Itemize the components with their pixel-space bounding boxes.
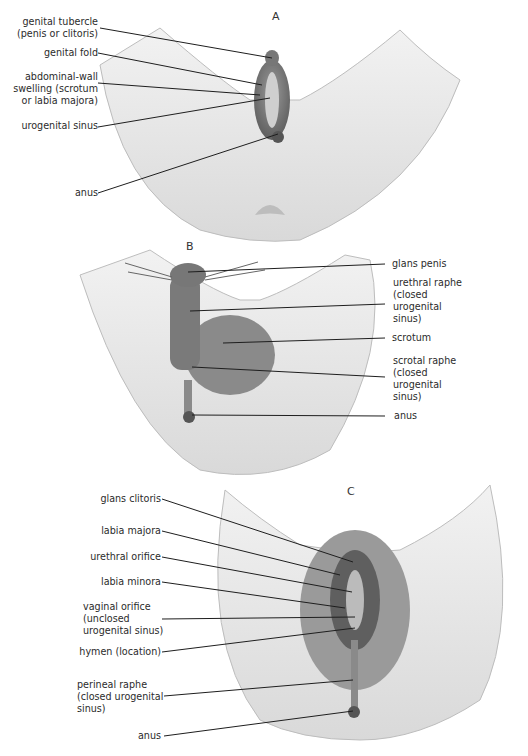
label-line: or labia majora) bbox=[13, 95, 98, 107]
label-anus-a: anus bbox=[75, 187, 98, 199]
label-line: abdominal-wall bbox=[13, 71, 98, 83]
label-urogenital-sinus: urogenital sinus bbox=[21, 120, 98, 132]
label-line: urethral orifice bbox=[90, 551, 161, 563]
label-line: glans clitoris bbox=[100, 493, 161, 505]
label-line: perineal raphe bbox=[77, 679, 163, 691]
label-vaginal-orifice: vaginal orifice (unclosed urogenital sin… bbox=[83, 601, 163, 637]
label-line: genital tubercle bbox=[17, 16, 98, 28]
panel-letter-a: A bbox=[272, 10, 280, 23]
label-anus-b: anus bbox=[394, 410, 417, 422]
label-perineal-raphe: perineal raphe (closed urogenital sinus) bbox=[77, 679, 163, 715]
label-urethral-orifice: urethral orifice bbox=[90, 551, 161, 563]
label-line: anus bbox=[138, 730, 161, 742]
panel-letter-b: B bbox=[186, 240, 194, 253]
label-line: urethral raphe bbox=[393, 277, 462, 289]
label-line: sinus) bbox=[77, 703, 163, 715]
label-labia-majora: labia majora bbox=[101, 525, 161, 537]
label-genital-tubercle: genital tubercle (penis or clitoris) bbox=[17, 16, 98, 40]
label-line: (penis or clitoris) bbox=[17, 28, 98, 40]
label-line: urogenital sinus bbox=[21, 120, 98, 132]
label-line: (closed bbox=[393, 289, 462, 301]
label-line: labia minora bbox=[101, 576, 161, 588]
label-line: urogenital bbox=[393, 301, 462, 313]
label-line: sinus) bbox=[393, 391, 456, 403]
label-line: urogenital sinus) bbox=[83, 625, 163, 637]
label-line: urogenital bbox=[393, 379, 456, 391]
label-glans-penis: glans penis bbox=[392, 258, 447, 270]
label-line: scrotum bbox=[392, 332, 431, 344]
panel-letter-c: C bbox=[347, 485, 355, 498]
label-genital-fold: genital fold bbox=[44, 47, 98, 59]
label-labia-minora: labia minora bbox=[101, 576, 161, 588]
label-scrotal-raphe: scrotal raphe (closed urogenital sinus) bbox=[393, 355, 456, 403]
label-line: (unclosed bbox=[83, 613, 163, 625]
label-line: (closed urogenital bbox=[77, 691, 163, 703]
label-urethral-raphe: urethral raphe (closed urogenital sinus) bbox=[393, 277, 462, 325]
label-line: anus bbox=[75, 187, 98, 199]
label-line: (closed bbox=[393, 367, 456, 379]
label-anus-c: anus bbox=[138, 730, 161, 742]
panel-b-illustration bbox=[80, 250, 375, 475]
label-hymen: hymen (location) bbox=[79, 646, 161, 658]
label-line: sinus) bbox=[393, 313, 462, 325]
panel-a-illustration bbox=[100, 28, 460, 241]
label-line: anus bbox=[394, 410, 417, 422]
panel-c-illustration bbox=[218, 485, 503, 740]
label-line: labia majora bbox=[101, 525, 161, 537]
label-line: glans penis bbox=[392, 258, 447, 270]
label-line: vaginal orifice bbox=[83, 601, 163, 613]
label-line: hymen (location) bbox=[79, 646, 161, 658]
label-line: scrotal raphe bbox=[393, 355, 456, 367]
label-line: genital fold bbox=[44, 47, 98, 59]
label-glans-clitoris: glans clitoris bbox=[100, 493, 161, 505]
label-abdominal-wall-swelling: abdominal-wall swelling (scrotum or labi… bbox=[13, 71, 98, 107]
label-scrotum: scrotum bbox=[392, 332, 431, 344]
label-line: swelling (scrotum bbox=[13, 83, 98, 95]
